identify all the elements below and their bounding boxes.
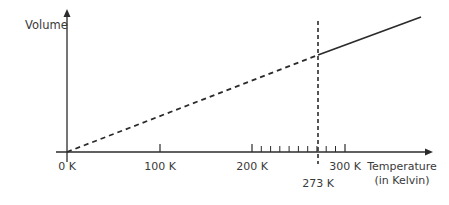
y-axis-label: Volume xyxy=(25,19,68,32)
x-tick-label-100k: 100 K xyxy=(144,160,176,173)
x-tick-label-300k: 300 K xyxy=(329,160,361,173)
marker-label-273k: 273 K xyxy=(302,177,334,190)
x-axis-label-line2: (in Kelvin) xyxy=(374,174,429,187)
x-tick-label-200k: 200 K xyxy=(236,160,268,173)
x-axis-arrow-icon xyxy=(425,149,433,156)
minor-ticks xyxy=(261,146,335,152)
x-axis-label-line1: Temperature xyxy=(367,160,437,173)
y-axis-arrow-icon xyxy=(64,9,71,17)
x-tick-label-0k: 0 K xyxy=(58,160,76,173)
extrapolated-dashed-line xyxy=(67,55,318,152)
measured-solid-line xyxy=(318,17,421,55)
